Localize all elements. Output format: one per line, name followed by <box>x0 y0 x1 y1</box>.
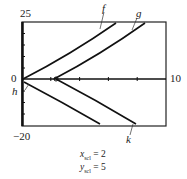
curve-label-h: h <box>12 86 18 97</box>
curve-g <box>54 23 145 79</box>
curve-label-k: k <box>126 134 131 145</box>
yscl-line: yscl = 5 <box>80 163 106 176</box>
y-max-label: 25 <box>20 8 31 19</box>
curve-k <box>56 79 136 124</box>
x-max-label: 10 <box>170 73 181 84</box>
leader-h <box>25 84 29 90</box>
scale-annotation: xscl = 2 yscl = 5 <box>80 150 106 176</box>
y-min-label: −20 <box>13 131 30 142</box>
leader-f <box>100 12 104 29</box>
curve-label-g: g <box>136 8 142 19</box>
y-zero-label: 0 <box>11 73 17 84</box>
curve-h <box>24 82 100 124</box>
curve-label-f: f <box>102 3 105 14</box>
